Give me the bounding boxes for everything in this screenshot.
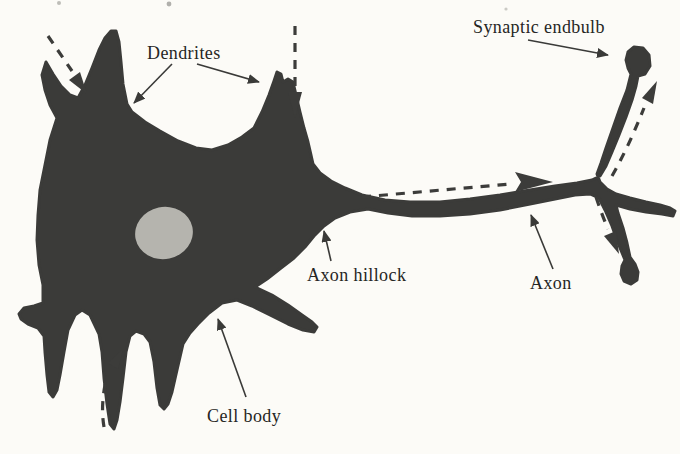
dendrites-label: Dendrites	[147, 43, 221, 63]
scan-speck	[167, 2, 172, 7]
scan-speck	[504, 7, 507, 10]
synaptic-endbulb-pointer	[528, 40, 608, 55]
axon-label: Axon	[530, 273, 572, 293]
cell-body-label: Cell body	[207, 406, 281, 426]
diagram-canvas: Dendrites Synaptic endbulb Axon hillock …	[0, 0, 680, 454]
neuron-diagram: Dendrites Synaptic endbulb Axon hillock …	[0, 0, 680, 454]
neuron-silhouette	[19, 31, 675, 429]
axon-hillock-label: Axon hillock	[307, 265, 406, 285]
axon-hillock-pointer	[324, 231, 331, 261]
cell-body-pointer	[218, 319, 246, 397]
axon-pointer	[531, 215, 553, 269]
synaptic-endbulb-label: Synaptic endbulb	[473, 17, 605, 37]
scan-speck	[57, 1, 61, 5]
dendrites-pointer-left	[134, 64, 172, 103]
dendrites-pointer-right	[197, 64, 259, 82]
